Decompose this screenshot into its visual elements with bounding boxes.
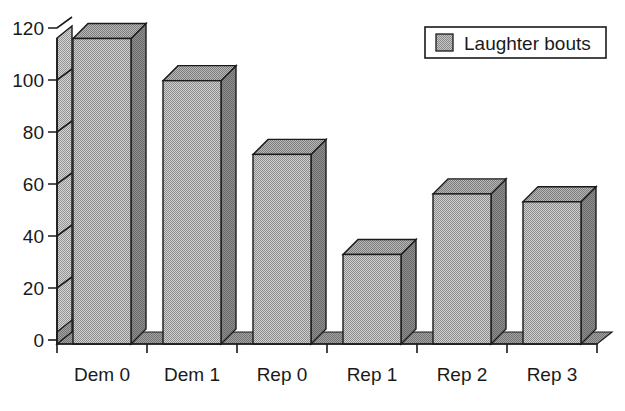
bar-rep-1 [343,239,416,344]
y-tick-label-0: 0 [33,330,44,351]
legend-swatch-laughter-bouts [436,34,453,51]
bar-side-face [221,66,236,344]
y-tick-label-100: 100 [12,70,44,91]
legend-label-laughter-bouts: Laughter bouts [464,33,591,54]
x-category-label-dem-1: Dem 1 [164,364,220,385]
y-tick-label-80: 80 [23,122,44,143]
x-category-label-rep-0: Rep 0 [257,364,308,385]
bar-rep-0 [253,139,326,344]
bar-side-face [311,139,326,344]
bar-front-face [163,81,221,344]
bar-front-face [523,202,581,344]
bar-front-face [253,154,311,344]
y-tick-label-120: 120 [12,18,44,39]
bar-front-face [343,254,401,344]
bar-dem-0 [73,24,146,344]
chart-canvas: 120 100 80 60 40 20 0 Dem 0 Dem 1 Rep 0 … [0,0,625,411]
y-tick-label-60: 60 [23,174,44,195]
bar-front-face [73,39,131,344]
bar-chart-figure: 120 100 80 60 40 20 0 Dem 0 Dem 1 Rep 0 … [0,0,625,411]
bar-side-face [401,239,416,344]
y-tick-label-20: 20 [23,278,44,299]
y-tick-label-40: 40 [23,226,44,247]
legend: Laughter bouts [425,27,606,58]
bar-side-face [491,179,506,344]
bar-rep-2 [433,179,506,344]
bar-rep-3 [523,187,596,344]
x-category-label-dem-0: Dem 0 [74,364,130,385]
bar-side-face [581,187,596,344]
bar-dem-1 [163,66,236,344]
x-category-label-rep-1: Rep 1 [347,364,398,385]
bar-front-face [433,194,491,344]
x-category-label-rep-2: Rep 2 [437,364,488,385]
x-category-label-rep-3: Rep 3 [527,364,578,385]
bar-side-face [131,24,146,344]
